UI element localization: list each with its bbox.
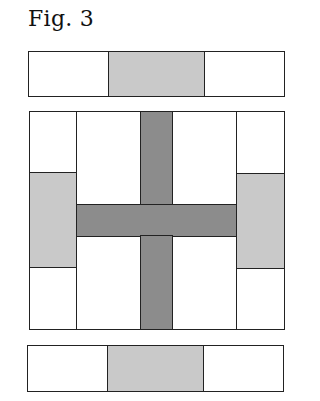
quadrant-top-left: [76, 111, 142, 206]
left-column-middle: [29, 172, 77, 269]
left-column-bottom: [29, 267, 77, 330]
left-column-top: [29, 111, 77, 173]
quadrant-bottom-right: [171, 235, 237, 330]
top-strip-right: [204, 51, 285, 97]
cross-vertical-bar-bottom: [140, 235, 173, 330]
right-column-middle: [236, 173, 286, 270]
right-column-top: [236, 111, 286, 174]
quadrant-bottom-left: [76, 235, 142, 330]
cross-vertical-bar-top: [140, 111, 173, 206]
bottom-strip-right: [203, 345, 284, 392]
bottom-strip-center: [107, 345, 205, 392]
figure-title: Fig. 3: [28, 6, 94, 31]
quadrant-top-right: [171, 111, 237, 206]
bottom-strip-left: [27, 345, 108, 392]
right-column-bottom: [236, 268, 286, 330]
top-strip-left: [28, 51, 109, 97]
top-strip-center: [108, 51, 206, 97]
cross-horizontal-bar: [76, 204, 238, 237]
